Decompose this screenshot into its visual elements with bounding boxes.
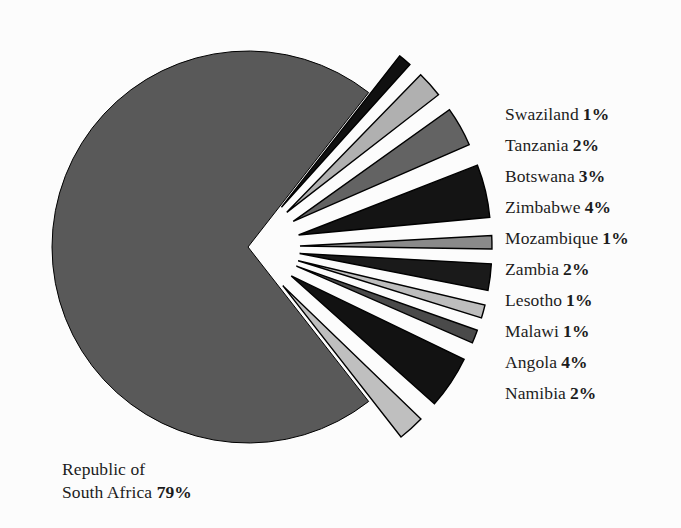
- legend-item: Angola4%: [505, 354, 681, 385]
- legend-item-label: Tanzania: [505, 135, 569, 155]
- legend-item-value: 2%: [563, 259, 589, 279]
- legend-item-label: Namibia: [505, 383, 566, 403]
- legend-item-label: Botswana: [505, 166, 575, 186]
- main-slice-label-line1: Republic of: [62, 458, 322, 481]
- legend-item-label: Lesotho: [505, 290, 562, 310]
- legend-item-value: 4%: [561, 352, 587, 372]
- main-slice-label-line2-text: South Africa: [62, 482, 152, 502]
- legend-item-value: 2%: [570, 383, 596, 403]
- legend-item: Tanzania2%: [505, 137, 681, 168]
- legend-item: Swaziland1%: [505, 106, 681, 137]
- main-slice-label-value: 79%: [157, 482, 192, 502]
- legend-item-label: Zambia: [505, 259, 559, 279]
- pie-chart: Swaziland1%Tanzania2%Botswana3%Zimbabwe4…: [0, 0, 681, 528]
- legend-item-label: Swaziland: [505, 104, 579, 124]
- chart-legend: Swaziland1%Tanzania2%Botswana3%Zimbabwe4…: [505, 106, 681, 416]
- legend-item-value: 3%: [579, 166, 605, 186]
- legend-item: Namibia2%: [505, 385, 681, 416]
- pie-slice-mozambique: [300, 236, 492, 249]
- legend-item: Mozambique1%: [505, 230, 681, 261]
- legend-item: Botswana3%: [505, 168, 681, 199]
- legend-item-label: Mozambique: [505, 228, 598, 248]
- legend-item-value: 4%: [585, 197, 611, 217]
- legend-item-label: Angola: [505, 352, 557, 372]
- pie-slices-group: [52, 51, 492, 443]
- legend-item-value: 1%: [602, 228, 628, 248]
- legend-item-label: Malawi: [505, 321, 559, 341]
- legend-item: Zimbabwe4%: [505, 199, 681, 230]
- legend-item: Malawi1%: [505, 323, 681, 354]
- main-slice-label: Republic of South Africa 79%: [62, 458, 322, 504]
- legend-item-value: 2%: [573, 135, 599, 155]
- legend-item: Zambia2%: [505, 261, 681, 292]
- legend-item-label: Zimbabwe: [505, 197, 581, 217]
- legend-item-value: 1%: [566, 290, 592, 310]
- main-slice-label-line2: South Africa 79%: [62, 481, 322, 504]
- legend-item-value: 1%: [563, 321, 589, 341]
- legend-item: Lesotho1%: [505, 292, 681, 323]
- legend-item-value: 1%: [583, 104, 609, 124]
